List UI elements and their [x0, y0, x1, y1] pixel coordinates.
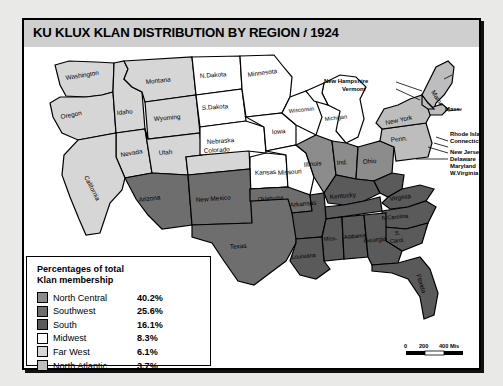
legend-row[interactable]: South16.1%	[37, 318, 210, 332]
callout-rhode-island: Rhode Island	[450, 131, 479, 137]
callout-west-virginia: W.Virginia	[450, 170, 479, 176]
legend-swatch	[37, 360, 48, 371]
legend-value: 3.7%	[137, 361, 158, 371]
callout-maryland: Maryland	[450, 163, 476, 169]
legend-label: South	[53, 320, 137, 330]
map-plate: KU KLUX KLAN DISTRIBUTION BY REGION / 19…	[22, 18, 481, 370]
legend-swatch	[37, 306, 48, 317]
callout-massachusetts: Mass.	[445, 106, 462, 112]
legend-row[interactable]: Southwest25.6%	[37, 304, 210, 318]
scale-bar: 0 200 400 Mis	[404, 343, 463, 355]
label-mississippi: Miss.	[324, 235, 338, 242]
state-florida[interactable]	[372, 257, 438, 319]
legend-value: 40.2%	[137, 293, 163, 303]
legend-value: 25.6%	[137, 306, 163, 316]
label-iowa: Iowa	[272, 127, 286, 135]
legend-label: Midwest	[53, 333, 137, 343]
legend-row[interactable]: Far West6.1%	[37, 345, 210, 359]
page-title: KU KLUX KLAN DISTRIBUTION BY REGION / 19…	[33, 25, 339, 40]
legend-swatch	[37, 333, 48, 344]
label-utah: Utah	[158, 148, 173, 156]
legend-heading-line1: Percentages of total	[37, 264, 210, 275]
legend-row[interactable]: North Atlantic3.7%	[37, 359, 210, 373]
state-arizona[interactable]	[125, 173, 192, 229]
callout-vermont: Vermont	[342, 86, 366, 92]
legend-panel: Percentages of total Klan membership Nor…	[26, 256, 211, 366]
legend-label: Far West	[53, 347, 137, 357]
label-texas: Texas	[230, 242, 247, 250]
legend-label: North Atlantic	[53, 361, 137, 371]
legend-swatch	[37, 319, 48, 330]
label-ohio: Ohio	[362, 157, 377, 165]
legend-heading-line2: Klan membership	[37, 275, 210, 286]
callout-new-jersey: New Jersey	[450, 149, 479, 155]
label-indiana: Ind.	[336, 158, 347, 166]
scale-label-mid: 200	[419, 343, 428, 349]
callout-new-hampshire: New Hampshire	[324, 78, 369, 84]
legend-rows: North Central40.2%Southwest25.6%South16.…	[37, 291, 210, 373]
legend-label: North Central	[53, 293, 137, 303]
title-bar: KU KLUX KLAN DISTRIBUTION BY REGION / 19…	[24, 20, 479, 47]
scale-label-zero: 0	[404, 343, 407, 349]
legend-row[interactable]: Midwest8.3%	[37, 332, 210, 346]
legend-value: 6.1%	[137, 347, 158, 357]
callout-connecticut: Connecticut	[450, 138, 479, 144]
callout-delaware: Delaware	[450, 156, 477, 162]
label-kansas: Kansas	[255, 168, 277, 176]
legend-swatch	[37, 346, 48, 357]
legend-value: 8.3%	[137, 333, 158, 343]
legend-row[interactable]: North Central40.2%	[37, 291, 210, 305]
state-washington[interactable]	[55, 61, 114, 97]
scale-label-max: 400 Mis	[439, 343, 459, 349]
region-south	[290, 173, 438, 319]
legend-label: Southwest	[53, 306, 137, 316]
label-south-carolina-1: S.	[395, 230, 401, 236]
legend-swatch	[37, 292, 48, 303]
legend-heading: Percentages of total Klan membership	[37, 264, 210, 287]
screenshot-background: KU KLUX KLAN DISTRIBUTION BY REGION / 19…	[0, 0, 503, 386]
legend-value: 16.1%	[137, 320, 163, 330]
